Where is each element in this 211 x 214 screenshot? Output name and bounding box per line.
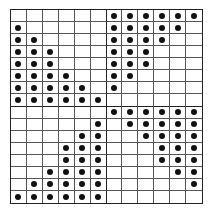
grid-cell	[91, 143, 107, 155]
grid-cell	[91, 10, 107, 22]
dot-icon	[111, 49, 117, 55]
grid-cell	[122, 70, 138, 82]
grid-cell	[91, 70, 107, 82]
grid-cell	[122, 46, 138, 58]
grid-cell	[170, 155, 186, 167]
grid-cell	[154, 46, 170, 58]
grid-cell	[27, 34, 43, 46]
grid-cell	[91, 107, 107, 119]
grid-cell	[122, 34, 138, 46]
grid-cell	[43, 107, 59, 119]
dot-icon	[47, 73, 53, 79]
grid-cell	[170, 58, 186, 70]
grid-cell	[138, 46, 154, 58]
dot-icon	[79, 145, 85, 151]
grid-cell	[59, 82, 75, 94]
dot-icon	[15, 73, 21, 79]
grid-cell	[170, 22, 186, 34]
dot-icon	[159, 13, 165, 19]
grid-cell	[11, 167, 27, 179]
dot-icon	[79, 85, 85, 91]
grid-cell	[75, 107, 91, 119]
grid-cell	[11, 70, 27, 82]
dot-icon	[95, 97, 101, 103]
dot-icon	[15, 97, 21, 103]
grid-cell	[75, 131, 91, 143]
dot-icon	[191, 109, 197, 115]
grid-cell	[186, 22, 202, 34]
grid-cell	[59, 70, 75, 82]
grid-cell	[75, 34, 91, 46]
dot-icon	[31, 61, 37, 67]
grid-cell	[43, 179, 59, 191]
grid-cell	[59, 131, 75, 143]
dot-icon	[143, 133, 149, 139]
dot-icon	[143, 109, 149, 115]
dot-icon	[175, 133, 181, 139]
grid-cell	[75, 94, 91, 106]
dot-icon	[79, 194, 85, 200]
dot-icon	[15, 194, 21, 200]
grid-cell	[91, 179, 107, 191]
grid-cell	[27, 94, 43, 106]
grid-cell	[91, 22, 107, 34]
grid-cell	[27, 58, 43, 70]
grid-cell	[59, 191, 75, 203]
grid-cell	[27, 22, 43, 34]
grid-cell	[138, 155, 154, 167]
dot-icon	[63, 169, 69, 175]
grid-cell	[107, 143, 123, 155]
grid-cell	[170, 10, 186, 22]
grid-cell	[43, 143, 59, 155]
grid-cell	[91, 46, 107, 58]
grid-cell	[186, 34, 202, 46]
grid-cell	[11, 191, 27, 203]
grid-cell	[11, 94, 27, 106]
grid-cell	[154, 94, 170, 106]
grid-cell	[107, 10, 123, 22]
grid-cell	[43, 58, 59, 70]
grid-cell	[43, 167, 59, 179]
grid-cell	[43, 119, 59, 131]
grid-cell	[107, 131, 123, 143]
grid-cell	[154, 58, 170, 70]
dot-icon	[15, 85, 21, 91]
dot-icon	[127, 37, 133, 43]
grid-cell	[170, 131, 186, 143]
grid-cell	[170, 107, 186, 119]
grid-cell	[186, 46, 202, 58]
grid-cell	[27, 82, 43, 94]
grid-cell	[11, 22, 27, 34]
grid-cell	[138, 191, 154, 203]
grid-cell	[107, 167, 123, 179]
grid-cell	[107, 34, 123, 46]
grid-cell	[138, 34, 154, 46]
grid-cell	[11, 131, 27, 143]
grid-cell	[138, 179, 154, 191]
grid-cell	[59, 58, 75, 70]
grid-cell	[107, 155, 123, 167]
grid-cell	[138, 58, 154, 70]
grid-cell	[75, 22, 91, 34]
grid-cell	[91, 82, 107, 94]
grid-cell	[170, 82, 186, 94]
grid-cell	[59, 10, 75, 22]
dot-icon	[63, 85, 69, 91]
grid-cell	[43, 10, 59, 22]
dot-icon	[31, 37, 37, 43]
grid-cell	[107, 82, 123, 94]
dot-icon	[143, 13, 149, 19]
grid-cell	[154, 107, 170, 119]
grid-cell	[27, 179, 43, 191]
grid-cell	[59, 167, 75, 179]
grid-cell	[27, 119, 43, 131]
grid-cell	[27, 70, 43, 82]
grid-cell	[27, 143, 43, 155]
grid-cell	[59, 46, 75, 58]
grid-cell	[27, 167, 43, 179]
grid-cell	[59, 155, 75, 167]
grid-cell	[27, 10, 43, 22]
grid-cell	[122, 22, 138, 34]
dot-icon	[191, 121, 197, 127]
dot-icon	[159, 145, 165, 151]
